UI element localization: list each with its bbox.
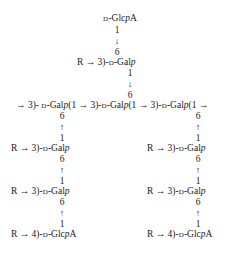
down-arrow-icon: ↓ bbox=[115, 36, 120, 47]
left-link3-to: 6 bbox=[60, 197, 65, 208]
top-terminal-glcpa: D-GlcpA bbox=[103, 13, 137, 25]
right-link2-to: 6 bbox=[196, 154, 201, 165]
right-link3-to: 6 bbox=[196, 197, 201, 208]
up-arrow-icon: ↑ bbox=[60, 208, 65, 219]
left-link2-to: 6 bbox=[60, 154, 65, 165]
right-terminal-glcpa: R → 4)-D-GlcpA bbox=[147, 229, 212, 241]
main-chain: → 3)- D-Galp(1 → 3)-D-Galp(1 → 3)-D-Galp… bbox=[16, 100, 208, 112]
right-link1-to: 6 bbox=[196, 111, 201, 122]
up-arrow-icon: ↑ bbox=[196, 165, 201, 176]
up-arrow-icon: ↑ bbox=[196, 208, 201, 219]
up-arrow-icon: ↑ bbox=[60, 122, 65, 133]
top-link1-from: 1 bbox=[115, 25, 120, 36]
up-arrow-icon: ↑ bbox=[196, 122, 201, 133]
left-terminal-glcpa: R → 4)-D-GlcpA bbox=[11, 229, 76, 241]
top-link2-from: 1 bbox=[128, 68, 133, 79]
down-arrow-icon: ↓ bbox=[128, 79, 133, 90]
left-link1-to: 6 bbox=[60, 111, 65, 122]
up-arrow-icon: ↑ bbox=[60, 165, 65, 176]
